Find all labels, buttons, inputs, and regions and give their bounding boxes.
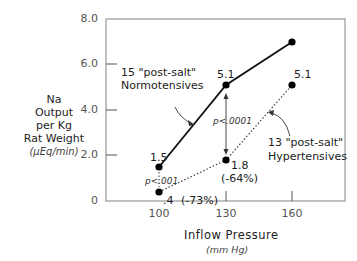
x-tick-label-160: 160 [277,207,307,220]
x-axis-unit: (mm Hg) [206,244,248,255]
arrow-down-icon [224,149,229,155]
hypertensive-point-100-label: .4 [163,194,174,207]
hypertensive-point-100-pct: (-73%) [181,194,218,207]
p-value-130: p<.0001 [213,116,252,126]
hypertensive-label-line2: Hypertensives [268,150,347,163]
chart-plot [0,0,357,261]
normotensive-label-line2: Normotensives [121,79,204,92]
y-tick-label-4: 4.0 [68,103,98,116]
y-tick-label-0: 0 [68,194,98,207]
normotensive-point-130-label: 5.1 [217,68,235,81]
hypertensive-point-130-label: 1.8 [231,159,249,172]
normotensive-point-160 [288,38,295,45]
hypertensive-point-130-pct: (-64%) [221,172,258,185]
hypertensive-point-130 [222,156,229,163]
normotensive-point-130 [222,81,229,88]
x-axis-title: Inflow Pressure [184,228,279,242]
y-tick-label-8: 8.0 [68,12,98,25]
normotensive-label-line1: 15 "post-salt" [121,66,196,79]
hypertensive-point-100 [155,188,162,195]
arrow-up-icon [224,93,229,99]
pointer-arrowhead-icon [268,110,274,116]
normotensive-point-100-label: 1.5 [150,151,168,164]
x-tick-label-100: 100 [144,207,174,220]
y-tick-label-6: 6.0 [68,57,98,70]
hypertensive-point-160-label: 5.1 [294,68,312,81]
y-tick-label-2: 2.0 [68,148,98,161]
hypertensive-point-160 [288,81,295,88]
x-tick-label-130: 130 [211,207,241,220]
hypertensive-pointer [271,113,290,136]
normotensive-point-100 [155,163,162,170]
p-value-100: p<.001 [145,176,178,186]
hypertensive-label-line1: 13 "post-salt" [268,136,343,149]
